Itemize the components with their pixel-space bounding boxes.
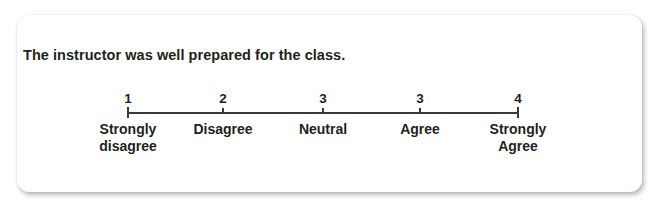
question-text: The instructor was well prepared for the… [23,47,345,63]
scale-tick-2 [222,108,224,113]
scale-tick-3 [322,108,324,113]
scale-label-agree: Agree [400,121,440,138]
scale-label-line2: disagree [99,138,157,155]
scale-tick-1 [127,107,129,118]
scale-label-line1: Agree [400,121,440,138]
scale-number-2: 2 [219,91,227,106]
scale-label-line1: Strongly [490,121,547,138]
scale-label-strongly-agree: Strongly Agree [490,121,547,155]
scale-label-neutral: Neutral [299,121,347,138]
rating-card [17,15,642,192]
scale-label-line1: Neutral [299,121,347,138]
scale-tick-4 [419,108,421,113]
rating-scale-line [128,112,519,114]
scale-label-disagree: Disagree [193,121,252,138]
scale-number-4: 3 [416,91,424,106]
scale-label-line2: Agree [490,138,547,155]
scale-number-5: 4 [514,91,522,106]
scale-number-3: 3 [319,91,327,106]
scale-tick-5 [517,107,519,118]
scale-number-1: 1 [124,91,132,106]
scale-label-line1: Strongly [99,121,157,138]
scale-label-line1: Disagree [193,121,252,138]
scale-label-strongly-disagree: Strongly disagree [99,121,157,155]
